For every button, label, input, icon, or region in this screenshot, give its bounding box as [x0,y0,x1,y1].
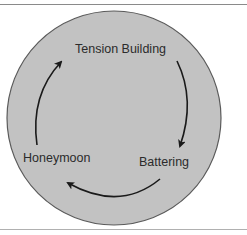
stage-battering: Battering [139,155,189,169]
bottom-rule [0,229,247,230]
stage-honeymoon: Honeymoon [23,151,90,165]
cycle-diagram [0,0,247,235]
stage-tension-building: Tension Building [75,42,166,56]
